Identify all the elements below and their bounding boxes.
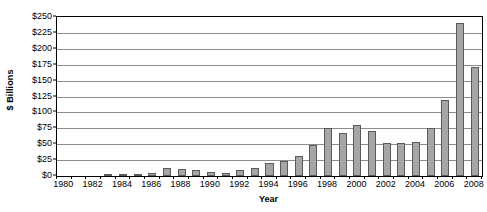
y-axis-tick-label: $250 — [32, 12, 52, 21]
x-axis-tick-label: 1998 — [317, 180, 337, 189]
y-axis-tick-label: $150 — [32, 75, 52, 84]
bar — [163, 168, 171, 176]
x-axis-tick-label: 1982 — [83, 180, 103, 189]
y-axis-tick-label: $75 — [37, 123, 52, 132]
x-axis-tick-label: 1986 — [141, 180, 161, 189]
bar — [339, 133, 347, 176]
bar — [251, 168, 259, 176]
bar — [471, 67, 479, 176]
bar — [456, 23, 464, 176]
y-axis-tick-label: $0 — [42, 171, 52, 180]
x-axis-tick-label: 1996 — [288, 180, 308, 189]
bar — [383, 143, 391, 176]
bar — [309, 145, 317, 176]
x-axis-tick-label: 1994 — [258, 180, 278, 189]
bar — [280, 161, 288, 176]
x-axis-tick-label: 2004 — [405, 180, 425, 189]
bar — [353, 125, 361, 176]
y-axis-tick-labels: $0$25$50$75$100$125$150$175$200$225$250 — [14, 10, 56, 176]
y-axis-tick-label: $125 — [32, 91, 52, 100]
y-axis-tick-label: $175 — [32, 59, 52, 68]
x-axis-tick-label: 2002 — [376, 180, 396, 189]
y-axis-tick-label: $50 — [37, 139, 52, 148]
x-axis-tick-labels: 1980198219841986198819901992199419961998… — [56, 180, 483, 192]
x-axis-tick-label: 1984 — [112, 180, 132, 189]
y-axis-tick-label: $25 — [37, 155, 52, 164]
bar — [368, 131, 376, 176]
x-axis-tick-label: 2000 — [346, 180, 366, 189]
y-axis-tick-label: $225 — [32, 27, 52, 36]
bar — [265, 163, 273, 176]
bar-chart: $ Billions $0$25$50$75$100$125$150$175$2… — [0, 0, 487, 212]
bar — [441, 100, 449, 176]
x-axis-title: Year — [56, 194, 481, 204]
x-axis-tick-label: 1990 — [200, 180, 220, 189]
bar — [324, 128, 332, 176]
x-axis-tick-label: 2006 — [434, 180, 454, 189]
x-axis-tick-label: 1992 — [229, 180, 249, 189]
y-axis-tick-label: $100 — [32, 107, 52, 116]
plot-area — [56, 16, 483, 177]
y-axis-tick-label: $200 — [32, 43, 52, 52]
y-axis-title-label: $ Billions — [4, 69, 14, 110]
x-axis-tick-label: 2008 — [464, 180, 484, 189]
bar — [427, 128, 435, 176]
x-axis-tick-label: 1980 — [53, 180, 73, 189]
bar — [397, 143, 405, 176]
bar — [295, 156, 303, 176]
bar-series — [57, 17, 482, 176]
bar — [412, 142, 420, 176]
bar — [178, 169, 186, 176]
x-axis-tick-label: 1988 — [171, 180, 191, 189]
